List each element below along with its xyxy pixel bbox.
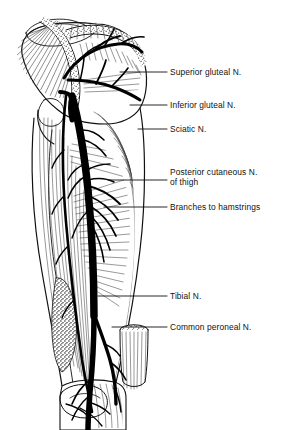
- drawing-ink: [15, 19, 167, 430]
- leader-lines: [98, 72, 167, 327]
- label-posterior-cutaneous-line1: Posterior cutaneous N.: [170, 167, 257, 177]
- label-common-peroneal-text: Common peroneal N.: [170, 322, 251, 332]
- label-common-peroneal: Common peroneal N.: [170, 322, 251, 332]
- label-sciatic-text: Sciatic N.: [170, 124, 206, 134]
- label-inferior-gluteal: Inferior gluteal N.: [170, 100, 236, 110]
- label-posterior-cutaneous-line2: of thigh: [170, 177, 257, 187]
- label-branches-hamstrings: Branches to hamstrings: [170, 202, 260, 212]
- label-branches-hamstrings-text: Branches to hamstrings: [170, 202, 260, 212]
- label-superior-gluteal: Superior gluteal N.: [170, 67, 241, 77]
- label-tibial: Tibial N.: [170, 291, 201, 301]
- label-inferior-gluteal-text: Inferior gluteal N.: [170, 100, 236, 110]
- label-posterior-cutaneous: Posterior cutaneous N. of thigh: [170, 167, 257, 187]
- anatomical-figure: [0, 0, 289, 430]
- deep-rotator-fibers: [84, 72, 140, 106]
- cut-muscle-stump: [120, 325, 148, 389]
- label-tibial-text: Tibial N.: [170, 291, 201, 301]
- label-sciatic: Sciatic N.: [170, 124, 206, 134]
- label-superior-gluteal-text: Superior gluteal N.: [170, 67, 241, 77]
